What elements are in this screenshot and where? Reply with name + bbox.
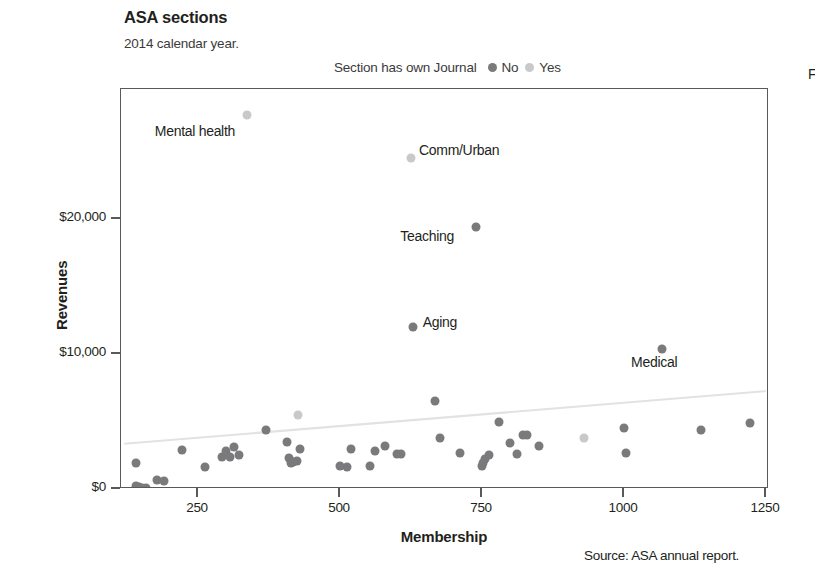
data-point[interactable] [658,344,667,353]
legend-label-no: No [502,60,519,75]
x-tick-label: 250 [186,500,208,515]
data-point[interactable] [234,451,243,460]
x-tick-label: 1000 [609,500,638,515]
x-tick-mark [480,488,481,497]
data-point[interactable] [131,459,140,468]
data-point[interactable] [456,448,465,457]
data-point[interactable] [472,223,481,232]
x-tick-label: 750 [470,500,492,515]
data-point[interactable] [242,111,251,120]
legend-label-yes: Yes [539,60,560,75]
y-tick-label: $0 [92,479,106,494]
legend: Section has own Journal No Yes [334,60,561,75]
data-point[interactable] [620,424,629,433]
data-point[interactable] [347,444,356,453]
y-tick-label: $20,000 [59,209,106,224]
data-point[interactable] [534,441,543,450]
data-point[interactable] [296,444,305,453]
data-point[interactable] [342,463,351,472]
data-point[interactable] [159,476,168,485]
data-point[interactable] [746,418,755,427]
data-point[interactable] [371,447,380,456]
x-tick-label: 500 [328,500,350,515]
data-point[interactable] [580,433,589,442]
data-point[interactable] [513,449,522,458]
clipped-edge-glyph: F [808,66,815,82]
data-point[interactable] [435,433,444,442]
x-tick-label: 1250 [751,500,780,515]
chart-page: ASA sections 2014 calendar year. Section… [0,0,815,572]
y-tick-label: $10,000 [59,344,106,359]
data-point[interactable] [381,441,390,450]
data-point[interactable] [506,439,515,448]
data-point[interactable] [523,431,532,440]
data-point[interactable] [407,154,416,163]
x-tick-mark [622,488,623,497]
x-tick-mark [764,488,765,497]
data-point[interactable] [408,323,417,332]
x-tick-mark [196,488,197,497]
legend-item-yes[interactable]: Yes [525,60,560,75]
source-note: Source: ASA annual report. [584,548,739,563]
legend-title: Section has own Journal [334,60,477,75]
x-axis-title: Membership [401,528,487,545]
point-label: Comm/Urban [419,142,499,158]
data-point[interactable] [397,449,406,458]
data-point[interactable] [282,437,291,446]
data-point[interactable] [622,448,631,457]
chart-subtitle: 2014 calendar year. [124,36,239,51]
point-label: Aging [423,314,457,330]
y-tick-mark [111,352,120,353]
data-point[interactable] [696,425,705,434]
y-tick-mark [111,487,120,488]
point-label: Mental health [155,123,235,139]
data-point[interactable] [141,483,150,488]
y-tick-mark [111,217,120,218]
data-point[interactable] [262,425,271,434]
data-point[interactable] [225,452,234,461]
y-axis-title: Revenues [53,261,70,330]
data-point[interactable] [495,417,504,426]
data-point[interactable] [293,410,302,419]
data-point[interactable] [484,451,493,460]
legend-swatch-no-icon [488,63,497,72]
data-point[interactable] [292,456,301,465]
data-point[interactable] [200,463,209,472]
data-point[interactable] [431,397,440,406]
legend-swatch-yes-icon [525,63,534,72]
data-point[interactable] [178,445,187,454]
point-label: Medical [631,354,677,370]
point-label: Teaching [400,228,454,244]
legend-item-no[interactable]: No [488,60,519,75]
page-title: ASA sections [124,8,227,27]
data-point[interactable] [365,462,374,471]
x-tick-mark [338,488,339,497]
